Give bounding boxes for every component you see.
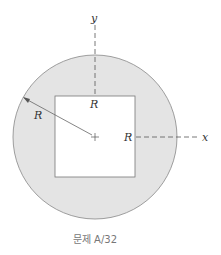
figure-caption: 문제 A/32	[0, 231, 190, 246]
x-axis-label: x	[202, 131, 209, 144]
square-right-label: R	[123, 131, 132, 144]
y-axis-label: y	[90, 12, 98, 25]
radius-label: R	[33, 109, 42, 122]
square-top-label: R	[89, 98, 98, 111]
figure-diagram: y x R R R	[0, 0, 221, 255]
